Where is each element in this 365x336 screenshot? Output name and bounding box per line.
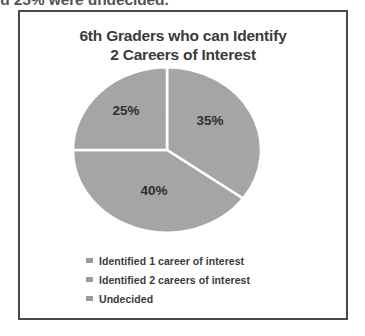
legend-item-label: Undecided bbox=[99, 293, 153, 305]
pie-slice-value-label-identified-2-careers: 40% bbox=[140, 183, 167, 198]
chart-title-line-1: 6th Graders who can Identify bbox=[20, 26, 346, 45]
clipped-body-text-fragment: sts and 25% were undecided. bbox=[0, 0, 169, 9]
clipped-body-text: sts and 25% were undecided. bbox=[0, 0, 365, 10]
legend-item-label: Identified 1 career of interest bbox=[99, 255, 244, 267]
pie-slice-value-label-identified-1-career: 35% bbox=[196, 113, 223, 128]
chart-title: 6th Graders who can Identify 2 Careers o… bbox=[20, 26, 346, 64]
legend-swatch-icon bbox=[86, 277, 93, 282]
pie-slice-value-label-undecided: 25% bbox=[112, 103, 139, 118]
pie-chart-svg: 35% 40% 25% bbox=[69, 68, 265, 232]
pie-chart-plot-area: 35% 40% 25% bbox=[69, 68, 265, 232]
legend-swatch-icon bbox=[86, 258, 93, 263]
legend-swatch-icon bbox=[86, 296, 93, 301]
chart-frame: 6th Graders who can Identify 2 Careers o… bbox=[18, 10, 348, 320]
legend-item-identified-2-careers[interactable]: Identified 2 careers of interest bbox=[86, 271, 326, 288]
chart-title-line-2: 2 Careers of Interest bbox=[20, 45, 346, 64]
legend-item-label: Identified 2 careers of interest bbox=[99, 274, 250, 286]
chart-legend: Identified 1 career of interest Identifi… bbox=[86, 252, 326, 309]
legend-item-undecided[interactable]: Undecided bbox=[86, 290, 326, 307]
legend-item-identified-1-career[interactable]: Identified 1 career of interest bbox=[86, 252, 326, 269]
